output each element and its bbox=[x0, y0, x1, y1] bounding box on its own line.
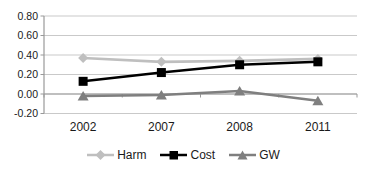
chart-legend: Harm Cost GW bbox=[0, 144, 367, 166]
x-tick-label: 2008 bbox=[226, 120, 253, 134]
line-chart: 0.800.600.400.200.00-0.20200220072008201… bbox=[0, 0, 367, 173]
legend-label-cost: Cost bbox=[190, 149, 215, 161]
y-tick-label: 0.80 bbox=[18, 10, 39, 22]
square-marker-icon bbox=[170, 151, 179, 160]
harm-series-icon bbox=[87, 149, 114, 161]
legend-item-cost: Cost bbox=[160, 149, 215, 161]
y-tick-label: 0.60 bbox=[18, 29, 39, 41]
x-tick-label: 2002 bbox=[70, 120, 97, 134]
legend-label-harm: Harm bbox=[117, 149, 146, 161]
y-tick-label: -0.20 bbox=[14, 107, 38, 119]
x-tick-label: 2007 bbox=[148, 120, 175, 134]
diamond-marker-icon bbox=[96, 150, 106, 160]
y-tick-label: 0.40 bbox=[18, 49, 39, 61]
y-tick-label: 0.20 bbox=[18, 68, 39, 80]
gridlines: 0.800.600.400.200.00-0.20 bbox=[14, 10, 357, 120]
x-tick-labels: 2002200720082011 bbox=[70, 120, 331, 134]
cost-series-icon bbox=[160, 149, 187, 161]
legend-item-harm: Harm bbox=[87, 149, 146, 161]
legend-item-gw: GW bbox=[229, 149, 280, 161]
gw-series-icon bbox=[229, 149, 256, 161]
y-tick-label: 0.00 bbox=[18, 88, 39, 100]
legend-label-gw: GW bbox=[259, 149, 280, 161]
plot-area: 0.800.600.400.200.00-0.20200220072008201… bbox=[0, 0, 367, 142]
x-tick-label: 2011 bbox=[305, 120, 331, 134]
